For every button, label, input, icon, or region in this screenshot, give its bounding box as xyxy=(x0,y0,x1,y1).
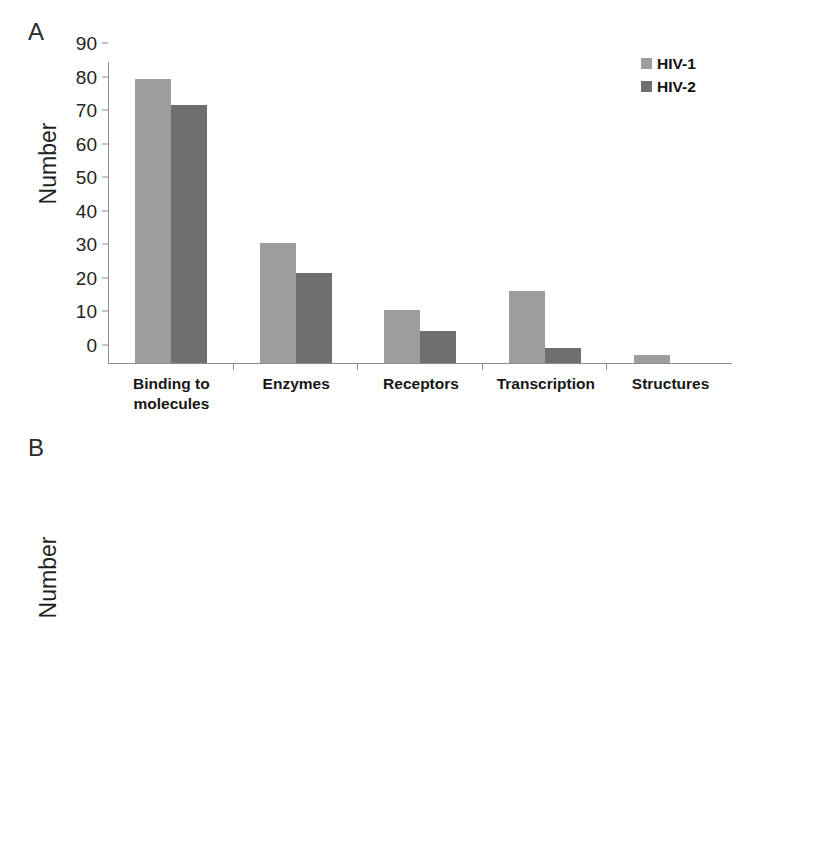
panel-a-y-tick-label: 40 xyxy=(76,201,97,220)
legend-label: HIV-2 xyxy=(657,79,696,95)
bar-hiv-1 xyxy=(634,355,670,363)
panel-a-y-tick: 10 xyxy=(76,302,108,321)
panel-a-y-tick-mark xyxy=(102,177,108,178)
legend-item-hiv-2: HIV-2 xyxy=(641,79,696,95)
bar-hiv-2 xyxy=(420,331,456,363)
panel-a-y-tick-mark xyxy=(102,110,108,111)
bar-group xyxy=(483,62,608,363)
panel-a-y-tick-mark xyxy=(102,244,108,245)
panel-a-y-tick-mark xyxy=(102,210,108,211)
x-axis-group-divider xyxy=(606,363,607,370)
x-axis-category-label: Structures xyxy=(608,374,733,414)
panel-b-letter: B xyxy=(28,434,45,462)
x-axis-category-label: Enzymes xyxy=(234,374,359,414)
panel-a-y-tick-label: 60 xyxy=(76,134,97,153)
panel-a-y-tick-label: 80 xyxy=(76,67,97,86)
panel-a-y-tick: 90 xyxy=(76,34,108,53)
legend-label: HIV-1 xyxy=(657,56,696,72)
bar-hiv-1 xyxy=(135,79,171,363)
bar-hiv-1 xyxy=(260,243,296,363)
bar-group xyxy=(109,62,234,363)
panel-a-plot-area: 0102030405060708090 xyxy=(108,62,732,364)
panel-a-y-tick-mark xyxy=(102,43,108,44)
bar-group xyxy=(234,62,359,363)
panel-a-y-tick: 70 xyxy=(76,101,108,120)
x-axis-category-label: Receptors xyxy=(359,374,484,414)
panel-a-y-tick-mark xyxy=(102,277,108,278)
panel-a-x-tick-labels: Binding to moleculesEnzymesReceptorsTran… xyxy=(109,374,733,414)
panel-a-y-tick: 20 xyxy=(76,268,108,287)
bar-hiv-2 xyxy=(545,348,581,363)
panel-a-y-tick: 0 xyxy=(86,336,108,355)
bar-hiv-1 xyxy=(384,310,420,364)
legend-swatch-icon xyxy=(641,58,652,69)
panel-a-y-tick: 40 xyxy=(76,201,108,220)
panel-a: A Number 0102030405060708090 Binding to … xyxy=(0,0,822,424)
panel-a-bar-groups xyxy=(109,62,732,363)
panel-a-y-tick-label: 20 xyxy=(76,268,97,287)
panel-a-y-tick-label: 30 xyxy=(76,235,97,254)
panel-a-y-tick: 80 xyxy=(76,67,108,86)
panel-a-y-tick-label: 70 xyxy=(76,101,97,120)
x-axis-group-divider xyxy=(482,363,483,370)
x-axis-group-divider xyxy=(233,363,234,370)
bar-hiv-2 xyxy=(296,273,332,363)
panel-a-y-axis-title: Number xyxy=(35,84,62,244)
panel-a-y-tick-label: 10 xyxy=(76,302,97,321)
panel-b: B Number 05101520253035 Signal transduct… xyxy=(0,424,822,848)
bar-hiv-1 xyxy=(509,291,545,363)
panel-a-y-tick-mark xyxy=(102,311,108,312)
panel-a-y-tick: 60 xyxy=(76,134,108,153)
panel-a-y-tick: 30 xyxy=(76,235,108,254)
panel-a-y-tick-mark xyxy=(102,76,108,77)
panel-a-y-tick-mark xyxy=(102,345,108,346)
panel-a-y-tick-label: 90 xyxy=(76,34,97,53)
x-axis-category-label: Binding to molecules xyxy=(109,374,234,414)
panel-a-x-axis-line xyxy=(108,363,732,364)
panel-a-y-tick-label: 0 xyxy=(86,336,97,355)
legend-item-hiv-1: HIV-1 xyxy=(641,56,696,72)
panel-b-y-axis-title: Number xyxy=(35,498,62,658)
legend-swatch-icon xyxy=(641,81,652,92)
bar-group xyxy=(358,62,483,363)
bar-hiv-2 xyxy=(171,105,207,363)
x-axis-group-divider xyxy=(357,363,358,370)
panel-a-legend: HIV-1HIV-2 xyxy=(641,56,696,94)
panel-a-letter: A xyxy=(28,18,45,46)
panel-a-y-tick-mark xyxy=(102,143,108,144)
panel-a-y-tick: 50 xyxy=(76,168,108,187)
panel-a-y-tick-label: 50 xyxy=(76,168,97,187)
bar-group xyxy=(607,62,732,363)
x-axis-category-label: Transcription xyxy=(483,374,608,414)
